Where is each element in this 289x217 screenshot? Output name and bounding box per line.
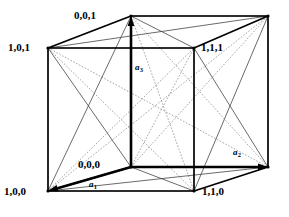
vertex-dot-v100 [46, 189, 49, 192]
face-diagonal [131, 16, 194, 48]
vertex-label-101: 1,0,1 [8, 42, 30, 53]
vertex-label-111: 1,1,1 [201, 42, 223, 53]
axis-label-a1: a1 [89, 180, 97, 189]
hidden-face-diagonal [131, 16, 194, 191]
vertex-label-001: 0,0,1 [74, 10, 96, 21]
vertex-dot-v001 [129, 14, 132, 17]
axis-letter-a3: a [135, 62, 140, 72]
axis-label-a2: a2 [233, 148, 241, 157]
vertex-dot-v111 [192, 46, 195, 49]
vertex-dot-v110 [192, 189, 195, 192]
vertex-dot-v000 [129, 165, 132, 168]
vertex-label-110: 1,1,0 [202, 186, 224, 197]
axis-letter-a1: a [89, 179, 94, 189]
vertex-label-000: 0,0,0 [78, 159, 100, 170]
vertex-dot-v011 [266, 14, 269, 17]
face-diagonal [48, 167, 268, 191]
axis-label-a3: a3 [135, 63, 143, 72]
vertex-label-100: 1,0,0 [4, 186, 26, 197]
axis-subscript-a2: 2 [238, 151, 241, 158]
face-diagonal [48, 48, 131, 167]
axis-subscript-a3: 3 [140, 66, 143, 73]
vertex-dot-v101 [46, 46, 49, 49]
face-diagonal [194, 48, 268, 167]
vertex-dot-v010 [266, 165, 269, 168]
cube-drawing [0, 0, 289, 217]
axis-letter-a2: a [233, 147, 238, 157]
axis-subscript-a1: 1 [94, 183, 97, 190]
unit-cell-figure: 0,0,1 1,0,1 1,1,1 0,0,0 1,0,0 1,1,0 a1 a… [0, 0, 289, 217]
face-diagonal [131, 167, 194, 191]
